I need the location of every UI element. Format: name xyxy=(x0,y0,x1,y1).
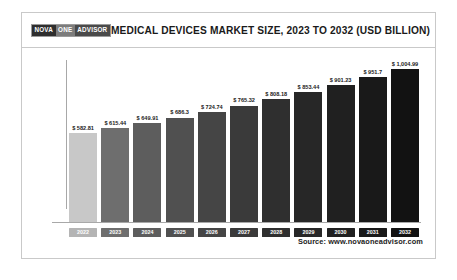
bar-column: $ 808.18 xyxy=(262,60,290,222)
bar-series: $ 582.81$ 615.44$ 649.91$ 686.3$ 724.74$… xyxy=(67,60,421,222)
bar-value-label: $ 853.44 xyxy=(298,85,320,91)
bar-rect xyxy=(327,85,355,222)
bar-column: $ 615.44 xyxy=(101,60,129,222)
bar-value-label: $ 724.74 xyxy=(201,105,223,111)
bar-value-label: $ 615.44 xyxy=(104,121,126,127)
bar-value-label: $ 1,004.99 xyxy=(392,62,418,68)
bar-column: $ 649.91 xyxy=(133,60,161,222)
bar-rect xyxy=(359,77,387,222)
bar-rect xyxy=(198,112,226,222)
bar-rect xyxy=(101,128,129,222)
brand-logo-part3: ADVISOR xyxy=(75,25,110,36)
bar-column: $ 901.23 xyxy=(327,60,355,222)
brand-logo-part1: NOVA xyxy=(32,25,56,36)
x-axis-line xyxy=(52,222,421,223)
bar-rect xyxy=(133,123,161,222)
bar-value-label: $ 901.23 xyxy=(330,78,352,84)
bar-column: $ 853.44 xyxy=(294,60,322,222)
brand-logo: NOVA ONE ADVISOR xyxy=(31,24,111,37)
bar-column: $ 582.81 xyxy=(69,60,97,222)
bar-column: $ 765.32 xyxy=(230,60,258,222)
bar-column: $ 1,004.99 xyxy=(391,60,419,222)
bar-value-label: $ 686.3 xyxy=(170,110,189,116)
bar-rect xyxy=(262,99,290,222)
bar-value-label: $ 649.91 xyxy=(137,116,159,122)
bar-column: $ 686.3 xyxy=(166,60,194,222)
chart-header: NOVA ONE ADVISOR MEDICAL DEVICES MARKET … xyxy=(22,13,435,48)
bar-rect xyxy=(294,92,322,222)
bar-value-label: $ 951.7 xyxy=(363,70,382,76)
bar-value-label: $ 765.32 xyxy=(233,98,255,104)
chart-title: MEDICAL DEVICES MARKET SIZE, 2023 TO 203… xyxy=(111,25,457,36)
source-label: Source: www.novaoneadvisor.com xyxy=(298,237,423,246)
bar-value-label: $ 808.18 xyxy=(265,92,287,98)
bar-rect xyxy=(166,118,194,222)
bar-value-label: $ 582.81 xyxy=(72,126,94,132)
chart-card: NOVA ONE ADVISOR MEDICAL DEVICES MARKET … xyxy=(21,12,436,259)
chart-footer: Source: www.novaoneadvisor.com xyxy=(22,224,435,258)
bar-rect xyxy=(230,106,258,223)
bar-rect xyxy=(391,69,419,222)
bar-column: $ 724.74 xyxy=(198,60,226,222)
brand-logo-part2: ONE xyxy=(56,25,75,36)
bar-rect xyxy=(69,133,97,222)
bar-column: $ 951.7 xyxy=(359,60,387,222)
